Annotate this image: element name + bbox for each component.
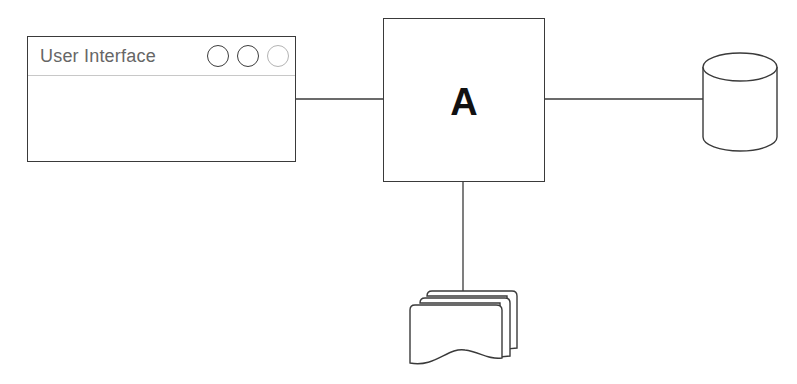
document-stack-icon [410, 291, 517, 364]
diagram-canvas: User Interface A [0, 0, 797, 384]
user-interface-titlebar: User Interface [28, 37, 295, 76]
user-interface-window: User Interface [27, 36, 296, 162]
user-interface-title: User Interface [40, 46, 156, 67]
window-circle-icon [207, 45, 229, 67]
database-cylinder-icon [703, 53, 777, 151]
window-circle-icon [237, 45, 259, 67]
central-component-label: A [384, 81, 544, 124]
central-component-box: A [383, 18, 545, 182]
window-circle-faded-icon [267, 45, 289, 67]
